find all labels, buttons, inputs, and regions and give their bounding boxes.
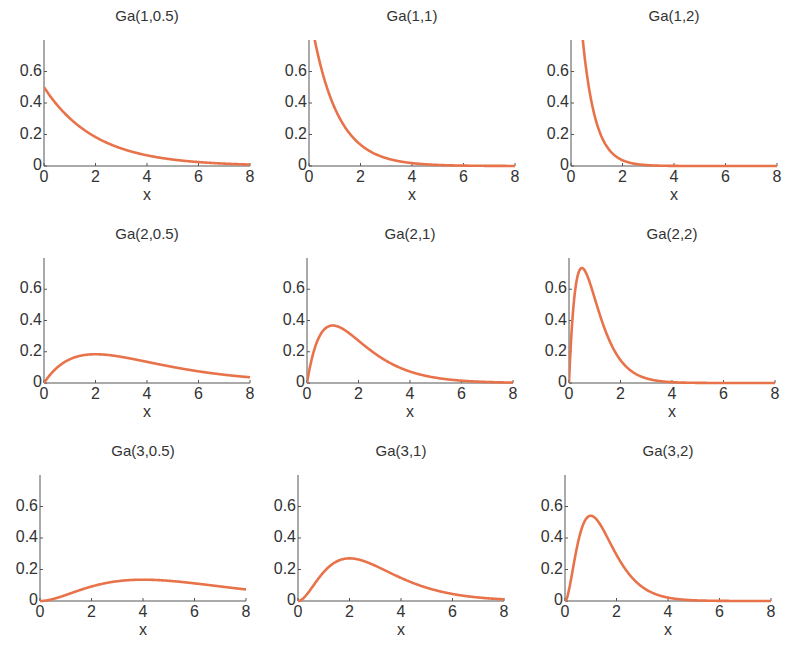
axes-lines: [565, 475, 771, 601]
y-tick-label: 0.2: [527, 561, 563, 577]
y-tick-label: 0.4: [527, 529, 563, 545]
pdf-curve: [565, 516, 771, 601]
y-tick-label: 0.6: [527, 498, 563, 514]
subplot-ga-3-2: Ga(3,2)00.20.40.602468x: [0, 0, 262, 220]
plot-area: [0, 0, 786, 661]
x-axis-label: x: [658, 621, 678, 639]
x-tick-label: 4: [658, 604, 678, 620]
x-tick-label: 0: [555, 604, 575, 620]
x-tick-label: 6: [710, 604, 730, 620]
x-tick-label: 2: [607, 604, 627, 620]
x-tick-label: 8: [761, 604, 781, 620]
